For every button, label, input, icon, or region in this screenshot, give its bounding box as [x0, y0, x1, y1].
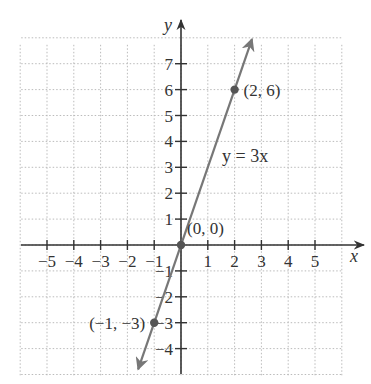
x-tick-label: −2 [118, 252, 136, 271]
y-tick-label: 2 [165, 184, 174, 203]
data-point [230, 85, 238, 93]
equation-label: y = 3x [222, 146, 268, 166]
data-point [177, 241, 185, 249]
x-tick-label: 2 [230, 252, 239, 271]
point-label: (−1, −3) [89, 314, 145, 333]
y-tick-label: 6 [165, 81, 174, 100]
data-points: (2, 6)(0, 0)(−1, −3) [89, 81, 280, 333]
x-tick-label: 1 [204, 252, 213, 271]
x-tick-label: 4 [284, 252, 293, 271]
y-tick-label: 1 [165, 210, 174, 229]
y-tick-label: −4 [155, 340, 174, 359]
y-tick-label: 7 [165, 55, 174, 74]
tick-labels: −5−4−3−2−1123457654321−1−2−3−4 [38, 55, 319, 359]
point-label: (2, 6) [244, 81, 281, 100]
y-axis-label: y [162, 15, 172, 35]
y-tick-label: 4 [165, 132, 174, 151]
data-point [150, 319, 158, 327]
axes [21, 20, 364, 374]
point-label: (0, 0) [187, 219, 224, 238]
x-axis-label: x [349, 246, 358, 266]
x-tick-label: 3 [257, 252, 266, 271]
coordinate-plane-chart: −5−4−3−2−1123457654321−1−2−3−4 (2, 6)(0,… [0, 0, 371, 384]
y-tick-label: 3 [165, 158, 174, 177]
x-tick-label: −3 [92, 252, 110, 271]
x-tick-label: 5 [311, 252, 320, 271]
y-tick-label: 5 [165, 107, 174, 126]
x-tick-label: −4 [65, 252, 84, 271]
x-tick-label: −5 [38, 252, 56, 271]
